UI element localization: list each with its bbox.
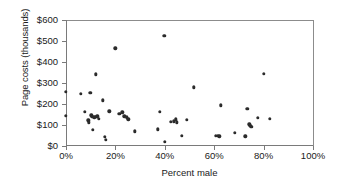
y-tick-mark xyxy=(62,83,66,84)
y-tick-mark xyxy=(62,62,66,63)
x-tick-label: 80% xyxy=(242,151,286,161)
y-tick-label: $500 xyxy=(14,36,58,46)
x-tick-label: 60% xyxy=(192,151,236,161)
y-tick-mark xyxy=(62,41,66,42)
scatter-chart: Page costs (thousands) $0$100$200$300$40… xyxy=(0,0,342,188)
y-tick-label: $0 xyxy=(14,141,58,151)
y-tick-mark xyxy=(62,20,66,21)
y-tick-label: $200 xyxy=(14,99,58,109)
plot-right-border xyxy=(313,20,314,147)
x-axis-title: Percent male xyxy=(66,167,313,178)
y-tick-mark xyxy=(62,125,66,126)
y-tick-label: $300 xyxy=(14,78,58,88)
y-tick-mark xyxy=(62,104,66,105)
x-tick-label: 100% xyxy=(291,151,335,161)
y-tick-label: $600 xyxy=(14,15,58,25)
y-tick-label: $400 xyxy=(14,57,58,67)
x-tick-label: 0% xyxy=(44,151,88,161)
x-tick-label: 40% xyxy=(143,151,187,161)
x-tick-label: 20% xyxy=(93,151,137,161)
y-tick-label: $100 xyxy=(14,120,58,130)
plot-area xyxy=(66,20,313,146)
